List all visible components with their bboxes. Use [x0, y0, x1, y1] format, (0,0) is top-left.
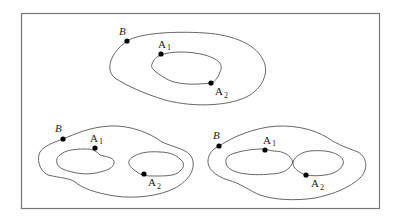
point-A1 [92, 145, 97, 150]
point-A1 [262, 147, 267, 152]
point-A2 [141, 171, 146, 176]
label-B: B [213, 129, 220, 141]
panel-bottom-left: B A1 A2 [39, 122, 194, 197]
label-A2: A2 [148, 176, 161, 191]
figure-frame [22, 14, 380, 209]
label-A2: A2 [311, 177, 324, 192]
panel-bottom-right: B A1 A2 [208, 126, 366, 200]
left-hole-curve [57, 149, 114, 174]
panel-top: B A1 A2 [110, 25, 266, 105]
label-A1: A1 [158, 38, 171, 52]
point-B [60, 136, 65, 141]
point-A1 [158, 51, 163, 56]
outer-boundary-curve [110, 32, 266, 105]
inner-hole-curve [152, 52, 222, 84]
point-B [216, 143, 221, 148]
right-hole-curve [129, 152, 184, 176]
left-hole-curve [226, 149, 293, 175]
outer-boundary-curve [39, 126, 194, 197]
point-A2 [303, 172, 308, 177]
point-B [124, 38, 129, 43]
label-A2: A2 [215, 85, 228, 100]
right-hole-curve [293, 151, 343, 176]
label-A1: A1 [263, 134, 276, 148]
label-B: B [119, 25, 126, 37]
label-A1: A1 [90, 132, 103, 146]
label-B: B [55, 122, 62, 134]
outer-boundary-curve [208, 126, 366, 200]
diagram-canvas: B A1 A2 B A1 A2 B A1 A2 [0, 0, 397, 217]
point-A2 [208, 80, 213, 85]
